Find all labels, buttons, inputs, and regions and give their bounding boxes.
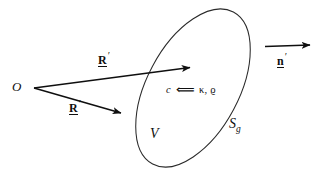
position-vector-lower-label: R′ [69,99,80,115]
volume-label: V [150,127,159,141]
constitutive-annotation: c⟸κ, ϱ [166,83,216,96]
surface-subscript: g [236,124,241,134]
surface-label: Sg [229,117,241,134]
normal-vector-arrow [265,45,310,47]
position-vector-lower-letter: R [69,103,78,115]
normal-vector-letter: n [277,56,284,68]
diagram-svg [0,0,328,176]
position-vector-lower-prime: ′ [78,98,80,109]
constitutive-parameters-label: κ, ϱ [199,84,216,95]
origin-label: O [12,80,21,93]
figure-canvas: O R′ R′ n′ V Sg c⟸κ, ϱ [0,0,328,176]
normal-vector-prime: ′ [284,51,286,62]
constitutive-c-label: c [166,84,171,95]
position-vector-upper-prime: ′ [107,50,109,61]
normal-vector-label: n′ [277,52,286,68]
position-vector-upper-letter: R [98,55,107,67]
double-left-arrow-icon: ⟸ [176,83,195,96]
position-vector-upper-label: R′ [98,51,109,67]
surface-letter: S [229,116,236,131]
